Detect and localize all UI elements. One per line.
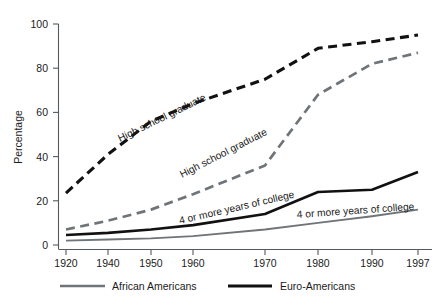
x-axis-tick-labels: 1920 1940 1950 1960 1970 1980 1990 1997 (54, 257, 430, 269)
series-line-highschool-euro-americans (66, 35, 418, 193)
y-tick-label: 40 (36, 151, 48, 163)
x-tick-label: 1990 (360, 257, 384, 269)
x-tick-label: 1960 (181, 257, 205, 269)
annotation-college-african: 4 or more years of college (296, 201, 415, 220)
y-axis-title: Percentage (12, 110, 24, 164)
y-axis-tick-labels: 100 80 60 40 20 0 (30, 18, 48, 251)
y-tick-label: 100 (30, 18, 48, 30)
x-tick-label: 1920 (54, 257, 78, 269)
annotation-highschool-african: High school graduate (178, 126, 269, 180)
x-tick-label: 1997 (406, 257, 430, 269)
x-axis-ticks (66, 250, 418, 256)
y-tick-label: 60 (36, 106, 48, 118)
legend: African Americans Euro-Americans (60, 280, 355, 292)
y-tick-label: 0 (42, 239, 48, 251)
legend-label-african-americans: African Americans (112, 280, 197, 292)
y-tick-label: 20 (36, 195, 48, 207)
legend-label-euro-americans: Euro-Americans (280, 280, 355, 292)
y-tick-label: 80 (36, 62, 48, 74)
chart-figure: 100 80 60 40 20 0 Percentage 1920 1940 1… (0, 0, 448, 301)
x-tick-label: 1950 (139, 257, 163, 269)
annotation-highschool-euro: High school graduate (116, 92, 208, 144)
inline-annotations: High school graduate High school graduat… (116, 92, 415, 226)
y-axis-ticks (53, 24, 59, 245)
x-tick-label: 1940 (96, 257, 120, 269)
line-chart-svg: 100 80 60 40 20 0 Percentage 1920 1940 1… (0, 0, 448, 301)
x-tick-label: 1970 (253, 257, 277, 269)
x-tick-label: 1980 (306, 257, 330, 269)
